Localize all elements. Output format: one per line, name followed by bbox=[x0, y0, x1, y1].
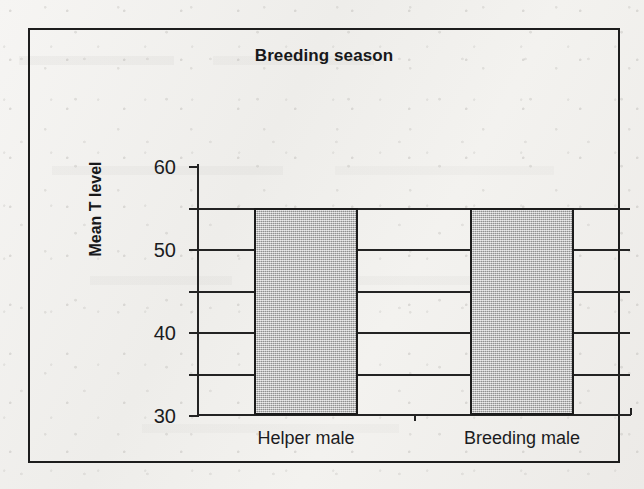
chart-title: Breeding season bbox=[30, 46, 618, 66]
y-tick-50: 50 bbox=[189, 208, 198, 210]
y-tick-0: 0 bbox=[189, 415, 198, 417]
y-tick-30: 30 bbox=[189, 291, 198, 293]
x-axis-label-breeding-male: Breeding male bbox=[414, 428, 630, 449]
y-tick-10: 10 bbox=[189, 374, 198, 376]
y-tick-20: 20 bbox=[189, 332, 198, 334]
chart-frame-border: Breeding season Mean T level 01020304050… bbox=[28, 28, 620, 463]
y-tick-60: 60 bbox=[189, 166, 198, 168]
x-tick-boundary-1 bbox=[414, 414, 416, 421]
y-axis-title: Mean T level bbox=[87, 129, 105, 289]
x-axis-end-tick bbox=[630, 408, 632, 415]
y-tick-40: 40 bbox=[189, 249, 198, 251]
y-tick-label-50: 50 bbox=[154, 239, 176, 262]
y-tick-label-30: 30 bbox=[154, 405, 176, 428]
x-axis-label-helper-male: Helper male bbox=[198, 428, 414, 449]
y-tick-label-60: 60 bbox=[154, 156, 176, 179]
plot-area: 0102030405060 bbox=[198, 166, 630, 415]
bar-breeding-male bbox=[470, 208, 574, 416]
bar-helper-male bbox=[254, 208, 358, 416]
y-tick-label-40: 40 bbox=[154, 322, 176, 345]
scanned-figure-page: Breeding season Mean T level 01020304050… bbox=[0, 0, 644, 489]
